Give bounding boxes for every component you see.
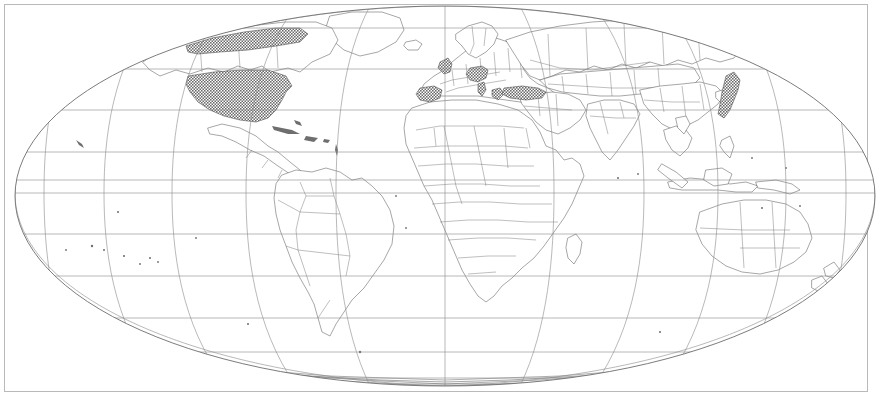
world-map-canvas[interactable] bbox=[0, 0, 890, 400]
pacific-islet bbox=[91, 245, 93, 247]
atlantic-islet bbox=[405, 227, 407, 229]
map-content-group bbox=[15, 6, 875, 392]
world-map-figure bbox=[0, 0, 890, 400]
pacific-islet bbox=[761, 207, 763, 209]
pacific-islet bbox=[799, 205, 801, 207]
atlantic-islet bbox=[395, 195, 397, 197]
pacific-islet bbox=[751, 157, 753, 159]
pacific-islet bbox=[65, 249, 67, 251]
pacific-islet bbox=[149, 257, 151, 259]
southern-ocean-islet bbox=[247, 323, 249, 325]
pacific-islet bbox=[139, 263, 141, 265]
southern-ocean-islet bbox=[659, 331, 661, 333]
indian-ocean-islet bbox=[637, 173, 639, 175]
pacific-islet bbox=[103, 249, 105, 251]
indian-ocean-islet bbox=[617, 177, 619, 179]
pacific-islet bbox=[123, 255, 125, 257]
pacific-islet bbox=[157, 261, 159, 263]
pacific-islet bbox=[117, 211, 119, 213]
pacific-islet bbox=[195, 237, 197, 239]
